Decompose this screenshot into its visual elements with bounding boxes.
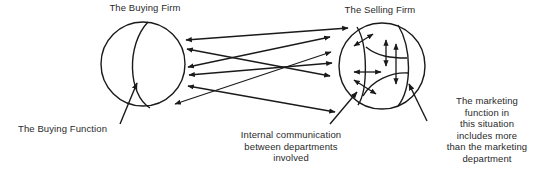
internal-communication-line-3: involved [226, 152, 356, 164]
buying-function-pointer [120, 83, 137, 124]
internal-communication-line-1: Internal communication [226, 129, 356, 141]
buying-firm-circle [101, 22, 185, 108]
marketing-function-line-1: The marketing [432, 95, 541, 107]
internal-arrows [354, 34, 396, 94]
buying-function-label: The Buying Function [18, 123, 128, 135]
inter-firm-arrows [175, 28, 348, 112]
internal-communication-label: Internal communication between departmen… [226, 129, 356, 164]
internal-communication-pointer [330, 92, 357, 124]
selling-firm-title: The Selling Firm [335, 4, 425, 16]
buying-firm-title: The Buying Firm [100, 2, 190, 14]
selling-firm-circle [339, 23, 425, 109]
internal-communication-line-2: between departments [226, 141, 356, 153]
marketing-function-line-3: this situation [432, 118, 541, 130]
marketing-function-line-2: function in [432, 107, 541, 119]
marketing-function-line-4: includes more [432, 130, 541, 142]
selling-dept-bottom-divider [363, 73, 408, 96]
selling-dept-right-divider [398, 25, 409, 106]
marketing-function-label: The marketing function in this situation… [432, 95, 541, 164]
marketing-function-line-5: than the marketing [432, 141, 541, 153]
marketing-function-line-6: department [432, 153, 541, 165]
buying-function-divider [132, 22, 150, 108]
